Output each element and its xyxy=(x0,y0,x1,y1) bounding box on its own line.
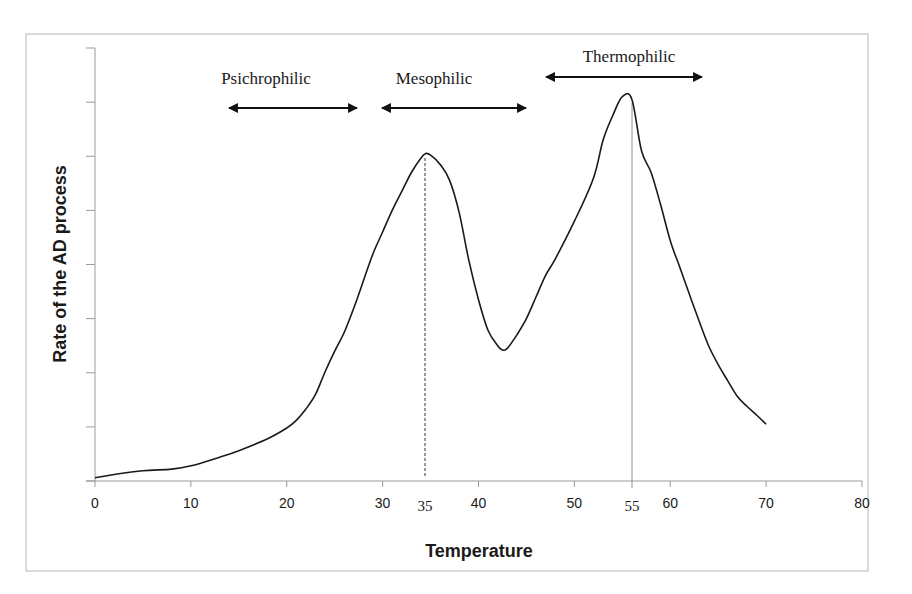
x-tick-label: 0 xyxy=(91,495,99,511)
chart-border xyxy=(26,34,868,571)
chart-container: 01020304050607080 35 55 Psichrophilic Me… xyxy=(0,0,912,594)
x-tick-label: 30 xyxy=(375,495,391,511)
x-tick-label: 50 xyxy=(567,495,583,511)
chart-svg: 01020304050607080 35 55 Psichrophilic Me… xyxy=(0,0,912,594)
region-label-mesophilic: Mesophilic xyxy=(396,69,473,88)
x-tick-label: 70 xyxy=(758,495,774,511)
marker-label-35: 35 xyxy=(418,498,433,514)
x-axis-title: Temperature xyxy=(425,541,533,561)
x-tick-label: 10 xyxy=(183,495,199,511)
x-tick-label: 80 xyxy=(854,495,870,511)
marker-label-55: 55 xyxy=(625,498,640,514)
region-label-thermophilic: Thermophilic xyxy=(583,47,676,66)
y-axis-title: Rate of the AD process xyxy=(50,165,70,362)
region-label-psichrophilic: Psichrophilic xyxy=(221,69,311,88)
x-tick-label: 60 xyxy=(662,495,678,511)
x-tick-label: 40 xyxy=(471,495,487,511)
x-tick-label: 20 xyxy=(279,495,295,511)
